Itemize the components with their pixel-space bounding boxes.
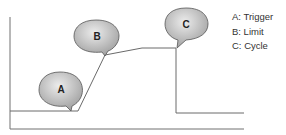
callout-b-label: B <box>93 31 100 42</box>
axes <box>10 17 244 129</box>
callout-a-label: A <box>57 84 64 95</box>
legend: A: Trigger B: Limit C: Cycle <box>232 10 273 54</box>
legend-item-a: A: Trigger <box>232 10 273 25</box>
callout-c: C <box>165 8 208 48</box>
legend-item-c: C: Cycle <box>232 39 273 54</box>
callout-a: A <box>39 72 82 111</box>
callout-c-label: C <box>182 19 189 30</box>
legend-item-b: B: Limit <box>232 25 273 40</box>
callout-b: B <box>74 20 119 56</box>
